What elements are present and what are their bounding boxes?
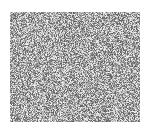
noise-texture (10, 12, 140, 122)
